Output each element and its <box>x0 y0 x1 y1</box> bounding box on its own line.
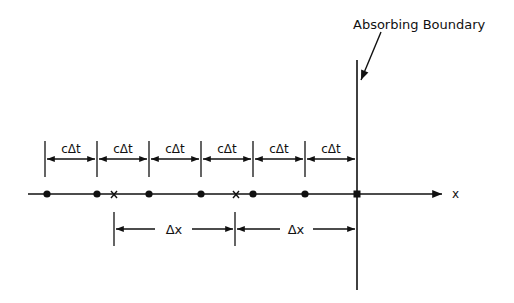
time-step-label: cΔt <box>269 142 289 156</box>
space-step-label: Δx <box>166 222 183 237</box>
time-step-label: cΔt <box>321 142 341 156</box>
absorbing-boundary-label: Absorbing Boundary <box>353 17 486 32</box>
time-step-label: cΔt <box>165 142 185 156</box>
time-step-label: cΔt <box>217 142 237 156</box>
boundary-pointer-arrow <box>361 32 381 80</box>
space-step-dimension-row <box>114 212 355 246</box>
fdtd-boundary-diagram: Absorbing Boundary cΔt cΔt cΔt cΔt cΔt c… <box>0 0 514 303</box>
x-axis-label: x <box>452 187 459 201</box>
time-step-label: cΔt <box>113 142 133 156</box>
space-step-label: Δx <box>288 222 305 237</box>
time-step-label: cΔt <box>61 142 81 156</box>
time-step-dimension-row <box>45 141 355 177</box>
